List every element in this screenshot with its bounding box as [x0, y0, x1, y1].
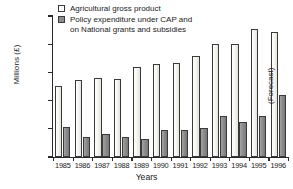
x-tick-mark [288, 157, 289, 161]
x-tick-label: 1996 [267, 161, 289, 170]
bar-group [251, 16, 266, 157]
bar[interactable] [200, 128, 207, 157]
y-tick-mark [48, 100, 52, 101]
bar-group [153, 16, 168, 157]
y-tick-mark [48, 72, 52, 73]
bar[interactable] [122, 137, 129, 157]
bar[interactable] [75, 80, 82, 157]
bar-group [173, 16, 188, 157]
bar[interactable] [63, 127, 70, 157]
y-tick-mark [48, 128, 52, 129]
legend-label: Policy expenditure under CAP and on Nati… [70, 15, 192, 34]
bar-group [94, 16, 109, 157]
bar[interactable] [55, 86, 62, 157]
bar-chart: Millions (£) 02,0004,0006,0008,00010,000… [0, 0, 293, 189]
legend-swatch-icon-light [58, 5, 65, 12]
bar[interactable] [251, 29, 258, 157]
bar[interactable] [239, 122, 246, 157]
plot-area [53, 16, 288, 157]
bar[interactable] [212, 44, 219, 157]
legend-swatch-icon-dark [58, 16, 65, 23]
bar[interactable] [83, 137, 90, 157]
x-axis-title: Years [0, 172, 293, 182]
bar[interactable] [173, 63, 180, 157]
bar-group [75, 16, 90, 157]
bar[interactable] [153, 64, 160, 157]
legend-item-policy-expenditure[interactable]: Policy expenditure under CAP and on Nati… [58, 15, 192, 34]
bar[interactable] [94, 78, 101, 157]
bar[interactable] [161, 130, 168, 157]
bar[interactable] [231, 44, 238, 158]
bar[interactable] [102, 134, 109, 157]
bar-group [55, 16, 70, 157]
bar-group [231, 16, 246, 157]
bar[interactable] [141, 139, 148, 157]
y-tick-mark [48, 15, 52, 16]
legend-item-agricultural-gross-product[interactable]: Agricultural gross product [58, 4, 192, 13]
bar-group [212, 16, 227, 157]
bar[interactable] [259, 116, 266, 157]
legend: Agricultural gross product Policy expend… [58, 4, 192, 36]
bar[interactable] [114, 79, 121, 157]
y-tick-mark [48, 44, 52, 45]
forecast-annotation: (Forecast) [266, 68, 275, 104]
bar-group [192, 16, 207, 157]
bar[interactable] [133, 67, 140, 157]
legend-label: Agricultural gross product [70, 4, 161, 13]
bar[interactable] [181, 130, 188, 157]
bar-group [114, 16, 129, 157]
bar-group [133, 16, 148, 157]
y-axis-title: Millions (£) [12, 17, 21, 113]
bar[interactable] [220, 116, 227, 157]
bar[interactable] [279, 95, 286, 157]
bar[interactable] [192, 56, 199, 157]
y-tick-mark [48, 156, 52, 157]
